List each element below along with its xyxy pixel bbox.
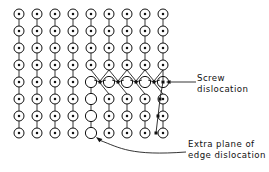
atom-filled xyxy=(122,94,132,104)
atom-filled xyxy=(158,128,168,138)
atom-filled xyxy=(140,43,150,53)
atom-center-dot xyxy=(108,47,111,50)
atom-center-dot xyxy=(108,98,111,101)
atom-center-dot xyxy=(36,115,39,118)
atom-filled xyxy=(68,26,78,36)
atom-center-dot xyxy=(54,115,57,118)
screw-label-line-1: Screw xyxy=(197,73,248,84)
right-column-marker-square xyxy=(162,81,165,84)
atom-center-dot xyxy=(36,30,39,33)
atom-center-dot xyxy=(162,47,165,50)
atom-center-dot xyxy=(108,64,111,67)
atom-center-dot xyxy=(72,132,75,135)
atom-center-dot xyxy=(144,30,147,33)
screw-label-line-2: dislocation xyxy=(197,84,248,95)
atom-filled xyxy=(122,43,132,53)
screw-marker-square xyxy=(99,81,102,84)
atom-filled xyxy=(140,94,150,104)
atom-filled xyxy=(14,111,24,121)
atom-open-circle xyxy=(103,76,114,87)
atom-filled xyxy=(158,26,168,36)
atom-center-dot xyxy=(54,98,57,101)
atom-filled xyxy=(122,60,132,70)
atom-filled xyxy=(32,111,42,121)
atom-center-dot xyxy=(126,64,129,67)
atom-center-dot xyxy=(18,47,21,50)
atom-center-dot xyxy=(126,13,129,16)
atom-center-dot xyxy=(144,47,147,50)
atom-center-dot xyxy=(108,115,111,118)
atom-center-dot xyxy=(108,132,111,135)
atom-center-dot xyxy=(18,115,21,118)
atom-center-dot xyxy=(36,13,39,16)
atom-filled xyxy=(86,43,96,53)
atom-filled xyxy=(122,111,132,121)
atom-center-dot xyxy=(54,47,57,50)
atom-filled xyxy=(68,9,78,19)
atom-center-dot xyxy=(162,64,165,67)
edge-label-line-2: edge dislocation xyxy=(188,150,266,161)
atom-filled xyxy=(32,128,42,138)
atom-open-circle xyxy=(85,110,96,121)
atom-center-dot xyxy=(54,132,57,135)
atom-center-dot xyxy=(126,98,129,101)
atom-center-dot xyxy=(126,115,129,118)
atom-filled xyxy=(68,77,78,87)
atom-filled xyxy=(122,128,132,138)
atom-filled xyxy=(68,60,78,70)
atom-filled xyxy=(68,111,78,121)
atom-center-dot xyxy=(36,98,39,101)
atom-center-dot xyxy=(90,47,93,50)
atom-open-circle xyxy=(85,127,96,138)
atom-center-dot xyxy=(162,30,165,33)
atom-center-dot xyxy=(18,64,21,67)
atom-filled xyxy=(68,128,78,138)
atom-center-dot xyxy=(36,64,39,67)
atom-center-dot xyxy=(144,98,147,101)
atom-center-dot xyxy=(72,81,75,84)
atom-center-dot xyxy=(18,13,21,16)
atom-filled xyxy=(158,60,168,70)
atom-filled xyxy=(32,9,42,19)
atom-filled xyxy=(104,60,114,70)
atom-center-dot xyxy=(126,30,129,33)
atom-filled xyxy=(86,9,96,19)
atom-filled xyxy=(122,26,132,36)
atom-center-dot xyxy=(36,81,39,84)
atom-center-dot xyxy=(72,47,75,50)
atom-filled xyxy=(140,111,150,121)
atom-filled xyxy=(140,128,150,138)
atom-center-dot xyxy=(18,132,21,135)
atom-filled xyxy=(158,9,168,19)
atom-center-dot xyxy=(144,64,147,67)
atom-filled xyxy=(104,94,114,104)
atom-center-dot xyxy=(18,98,21,101)
atom-center-dot xyxy=(162,13,165,16)
atom-filled xyxy=(14,94,24,104)
atom-filled xyxy=(14,43,24,53)
right-column-marker-square xyxy=(157,115,160,118)
atom-center-dot xyxy=(36,132,39,135)
atom-filled xyxy=(50,128,60,138)
atom-center-dot xyxy=(54,64,57,67)
atom-filled xyxy=(50,60,60,70)
screw-marker-square xyxy=(153,81,156,84)
atom-center-dot xyxy=(54,81,57,84)
atom-filled xyxy=(14,128,24,138)
atom-center-dot xyxy=(126,132,129,135)
atom-center-dot xyxy=(72,64,75,67)
atom-filled xyxy=(104,128,114,138)
atom-center-dot xyxy=(90,30,93,33)
atom-center-dot xyxy=(108,30,111,33)
atom-filled xyxy=(14,77,24,87)
atom-filled xyxy=(50,94,60,104)
atom-center-dot xyxy=(162,132,165,135)
atom-center-dot xyxy=(162,115,165,118)
atom-center-dot xyxy=(54,30,57,33)
atom-center-dot xyxy=(126,47,129,50)
atom-filled xyxy=(14,9,24,19)
atom-filled xyxy=(86,26,96,36)
atom-filled xyxy=(68,43,78,53)
screw-marker-square xyxy=(135,81,138,84)
atom-filled xyxy=(140,9,150,19)
